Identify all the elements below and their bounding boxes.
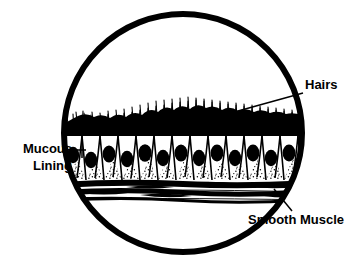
- diagram-canvas: Hairs Mucous Lining Smooth Muscle: [0, 0, 353, 270]
- label-smooth-muscle: Smooth Muscle: [248, 212, 344, 227]
- apical-band: [60, 131, 308, 136]
- label-mucous-lining-line2: Lining: [33, 158, 72, 173]
- epithelium-layer: [60, 136, 309, 180]
- label-hairs: Hairs: [305, 77, 338, 92]
- respiratory-lining-diagram: Hairs Mucous Lining Smooth Muscle: [0, 0, 353, 270]
- label-mucous-lining-line1: Mucous: [23, 141, 72, 156]
